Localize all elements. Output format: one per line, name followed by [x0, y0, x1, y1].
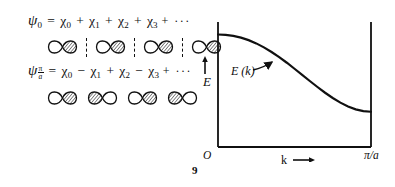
y-axis-label: E	[203, 74, 211, 90]
chi-subscript: 3	[154, 70, 159, 80]
term-chi-3: χ3	[147, 13, 158, 28]
figure-canvas: ψ0 = χ0 + χ1 + χ2 + χ3 + ···	[0, 0, 395, 187]
term-chi-0: χ0	[60, 13, 71, 28]
chi-subscript: 3	[153, 20, 158, 30]
ek-annotation-leader	[253, 62, 272, 70]
operator-1: +	[75, 13, 86, 28]
page-number: 9	[192, 164, 198, 176]
operator-1: −	[76, 63, 87, 78]
term-chi-1: χ1	[90, 63, 101, 78]
orbital-row-bonding	[47, 37, 222, 57]
orbital-pair-4	[167, 88, 198, 108]
operator-2: +	[104, 13, 115, 28]
term-chi-3: χ3	[148, 63, 159, 78]
orbital-pair-2	[95, 37, 126, 57]
orbital-pair-2	[87, 88, 118, 108]
p-orbital-icon	[47, 88, 78, 108]
p-orbital-icon	[167, 88, 198, 108]
node-plane-line-3	[182, 38, 183, 57]
node-plane-line-2	[134, 38, 135, 57]
orbital-pair-3	[127, 88, 158, 108]
chi-subscript: 2	[126, 70, 131, 80]
ek-annotation-text: E (k)	[231, 64, 255, 78]
equals-sign: =	[46, 13, 57, 28]
fraction-denominator: a	[38, 72, 44, 81]
psi-symbol: ψ	[28, 12, 38, 28]
psi-symbol: ψ	[28, 62, 38, 78]
p-orbital-icon	[95, 37, 126, 57]
p-orbital-icon	[47, 37, 78, 57]
term-chi-1: χ1	[89, 13, 100, 28]
equation-psi-zero: ψ0 = χ0 + χ1 + χ2 + χ3 + ···	[28, 12, 191, 30]
chi-subscript: 0	[68, 70, 73, 80]
operator-3: +	[132, 13, 143, 28]
equation-psi-pi-over-a: ψ π a = χ0 − χ1 + χ2 − χ3 + ···	[28, 62, 192, 81]
chi-subscript: 1	[95, 20, 100, 30]
chi-subscript: 0	[66, 20, 71, 30]
y-axis-arrow-head	[202, 56, 208, 62]
operator-3: −	[134, 63, 145, 78]
orbital-row-antibonding	[47, 88, 198, 108]
energy-band-chart	[200, 14, 385, 162]
chi-subscript: 1	[97, 70, 102, 80]
chi-subscript: 2	[124, 20, 129, 30]
x-axis-max-label: π/a	[364, 149, 379, 161]
ellipsis: + ···	[163, 64, 192, 78]
term-chi-2: χ2	[118, 13, 129, 28]
equals-sign: =	[47, 63, 58, 78]
x-axis-label: k	[281, 153, 287, 168]
term-chi-2: χ2	[119, 63, 130, 78]
ek-annotation-label: E (k)	[231, 64, 255, 79]
p-orbital-icon	[87, 88, 118, 108]
psi-subscript-fraction: π a	[38, 65, 44, 81]
p-orbital-icon	[143, 37, 174, 57]
x-axis-arrow-head	[309, 157, 315, 162]
p-orbital-icon	[127, 88, 158, 108]
node-plane-line-1	[86, 38, 87, 57]
orbital-pair-3	[143, 37, 174, 57]
ellipsis: + ···	[161, 14, 190, 28]
term-chi-0: χ0	[62, 63, 73, 78]
orbital-pair-1	[47, 37, 78, 57]
psi-subscript: 0	[38, 20, 43, 30]
fraction-numerator: π	[38, 65, 44, 73]
orbital-pair-1	[47, 88, 78, 108]
x-axis-origin-label: O	[203, 149, 211, 161]
operator-2: +	[105, 63, 116, 78]
